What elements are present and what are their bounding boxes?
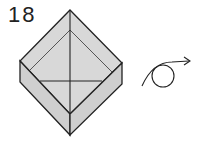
turn-over-arrow-icon (142, 57, 190, 87)
origami-diagram (0, 0, 202, 154)
